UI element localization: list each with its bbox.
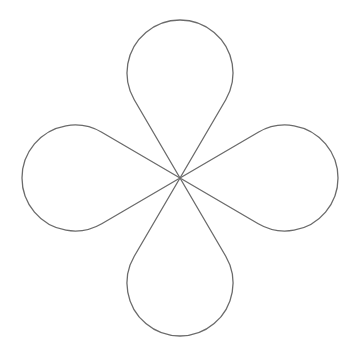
lobe-bottom [127,178,233,336]
lobe-top [127,20,233,178]
lobe-left [22,125,180,231]
four-lobe-curve-figure [0,0,356,358]
lobe-right [180,125,338,231]
